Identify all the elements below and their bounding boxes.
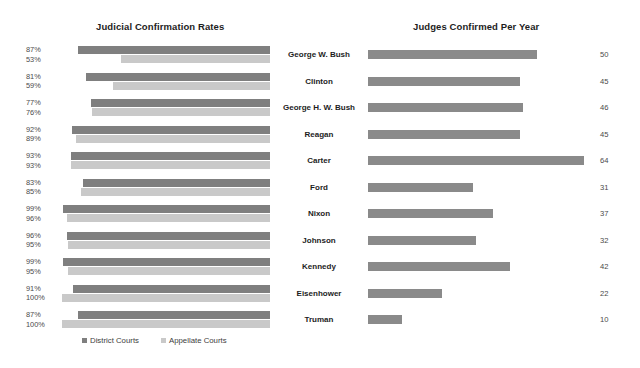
appellate-courts-bar <box>121 55 270 63</box>
appellate-percent-label: 59% <box>26 81 58 91</box>
judges-confirmed-bar <box>368 77 520 86</box>
legend-item: District Courts <box>82 336 139 345</box>
appellate-courts-bar <box>67 214 270 222</box>
president-name-label: George H. W. Bush <box>274 103 364 112</box>
president-name-label: Nixon <box>274 209 364 218</box>
appellate-courts-bar <box>76 135 270 143</box>
chart-row: 83%85%Ford31 <box>0 177 640 204</box>
district-percent-label: 87% <box>26 45 58 55</box>
confirmation-rate-bars <box>62 46 270 68</box>
judges-per-year-bars <box>368 315 584 326</box>
judges-confirmed-value-label: 42 <box>600 262 624 271</box>
confirmation-rate-bars <box>62 152 270 174</box>
district-courts-bar <box>78 311 270 319</box>
judges-per-year-bars <box>368 289 584 300</box>
legend-swatch-icon <box>161 338 166 343</box>
legend-label: Appellate Courts <box>169 336 227 345</box>
judges-per-year-bars <box>368 156 584 167</box>
judges-confirmed-value-label: 45 <box>600 77 624 86</box>
appellate-courts-bar <box>71 161 270 169</box>
appellate-courts-bar <box>113 82 270 90</box>
confirmation-rate-bars <box>62 285 270 307</box>
judges-confirmed-bar <box>368 236 476 245</box>
confirmation-rate-bars <box>62 232 270 254</box>
judges-confirmed-bar <box>368 315 402 324</box>
judges-confirmed-bar <box>368 209 493 218</box>
right-panel-title: Judges Confirmed Per Year <box>413 21 539 32</box>
judges-per-year-bars <box>368 103 584 114</box>
judges-per-year-bars <box>368 50 584 61</box>
chart-row: 93%93%Carter64 <box>0 150 640 177</box>
chart-legend: District CourtsAppellate Courts <box>82 336 227 345</box>
president-name-label: Eisenhower <box>274 289 364 298</box>
judges-per-year-bars <box>368 130 584 141</box>
district-courts-bar <box>73 285 270 293</box>
judges-confirmed-value-label: 50 <box>600 50 624 59</box>
appellate-courts-bar <box>92 108 270 116</box>
judges-confirmed-value-label: 46 <box>600 103 624 112</box>
district-courts-bar <box>67 232 270 240</box>
confirmation-rate-bars <box>62 179 270 201</box>
appellate-percent-label: 100% <box>26 320 58 330</box>
chart-row: 91%100%Eisenhower22 <box>0 283 640 310</box>
judges-confirmed-bar <box>368 262 510 271</box>
judges-per-year-bars <box>368 236 584 247</box>
percent-labels: 83%85% <box>26 178 58 197</box>
confirmation-rate-bars <box>62 99 270 121</box>
appellate-courts-bar <box>68 267 270 275</box>
district-percent-label: 96% <box>26 231 58 241</box>
percent-labels: 93%93% <box>26 151 58 170</box>
district-percent-label: 99% <box>26 204 58 214</box>
confirmation-rate-bars <box>62 205 270 227</box>
legend-item: Appellate Courts <box>161 336 227 345</box>
percent-labels: 99%96% <box>26 204 58 223</box>
chart-rows: 87%53%George W. Bush5081%59%Clinton4577%… <box>0 44 640 336</box>
chart-row: 81%59%Clinton45 <box>0 71 640 98</box>
percent-labels: 81%59% <box>26 72 58 91</box>
president-name-label: Ford <box>274 183 364 192</box>
district-percent-label: 99% <box>26 257 58 267</box>
district-percent-label: 91% <box>26 284 58 294</box>
district-percent-label: 77% <box>26 98 58 108</box>
district-courts-bar <box>86 73 270 81</box>
judges-confirmed-value-label: 32 <box>600 236 624 245</box>
district-courts-bar <box>83 179 270 187</box>
judges-confirmed-bar <box>368 183 473 192</box>
left-panel-title: Judicial Confirmation Rates <box>96 21 224 32</box>
chart-row: 99%96%Nixon37 <box>0 203 640 230</box>
chart-page: Judicial Confirmation Rates Judges Confi… <box>0 0 640 368</box>
percent-labels: 96%95% <box>26 231 58 250</box>
appellate-percent-label: 53% <box>26 55 58 65</box>
judges-per-year-bars <box>368 183 584 194</box>
chart-row: 99%95%Kennedy42 <box>0 256 640 283</box>
president-name-label: Truman <box>274 315 364 324</box>
district-percent-label: 81% <box>26 72 58 82</box>
judges-confirmed-value-label: 10 <box>600 315 624 324</box>
president-name-label: Johnson <box>274 236 364 245</box>
appellate-percent-label: 85% <box>26 187 58 197</box>
district-percent-label: 92% <box>26 125 58 135</box>
chart-row: 87%53%George W. Bush50 <box>0 44 640 71</box>
appellate-percent-label: 95% <box>26 267 58 277</box>
district-courts-bar <box>63 258 270 266</box>
judges-confirmed-value-label: 22 <box>600 289 624 298</box>
district-courts-bar <box>72 126 270 134</box>
president-name-label: Kennedy <box>274 262 364 271</box>
appellate-courts-bar <box>68 241 270 249</box>
president-name-label: Carter <box>274 156 364 165</box>
confirmation-rate-bars <box>62 126 270 148</box>
percent-labels: 87%100% <box>26 310 58 329</box>
appellate-courts-bar <box>81 188 270 196</box>
judges-per-year-bars <box>368 77 584 88</box>
percent-labels: 77%76% <box>26 98 58 117</box>
judges-confirmed-bar <box>368 103 523 112</box>
chart-row: 92%89%Reagan45 <box>0 124 640 151</box>
district-percent-label: 87% <box>26 310 58 320</box>
president-name-label: Reagan <box>274 130 364 139</box>
chart-row: 96%95%Johnson32 <box>0 230 640 257</box>
legend-swatch-icon <box>82 338 87 343</box>
confirmation-rate-bars <box>62 73 270 95</box>
judges-confirmed-value-label: 31 <box>600 183 624 192</box>
district-courts-bar <box>63 205 270 213</box>
district-courts-bar <box>71 152 270 160</box>
